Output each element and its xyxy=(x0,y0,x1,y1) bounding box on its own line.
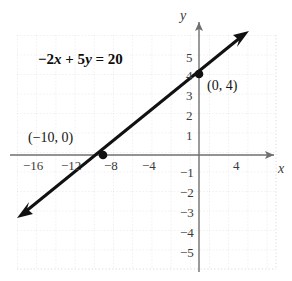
y-tick-1: 1 xyxy=(186,129,193,142)
equation-constant: = 20 xyxy=(92,51,123,67)
y-tick-3: 3 xyxy=(186,89,193,102)
y-tick-minus4: −4 xyxy=(180,226,194,239)
y-tick-5: 5 xyxy=(186,51,193,64)
x-tick-minus16: −16 xyxy=(23,159,43,172)
equation-variable-x: x xyxy=(54,51,62,67)
point-label-left: (−10, 0) xyxy=(28,131,73,145)
x-axis-label: x xyxy=(278,162,284,176)
y-tick-minus2: −2 xyxy=(180,186,194,199)
x-tick-minus12: −12 xyxy=(61,159,81,172)
x-tick-4: 4 xyxy=(233,159,240,172)
equation-label: −2x + 5y = 20 xyxy=(38,52,123,67)
x-tick-minus8: −8 xyxy=(104,159,118,172)
point-label-right: (0, 4) xyxy=(207,79,237,93)
point-marker-right xyxy=(195,70,204,79)
equation-variable-y: y xyxy=(85,51,92,67)
x-tick-minus4: −4 xyxy=(142,159,156,172)
y-tick-4: 4 xyxy=(186,69,193,82)
y-axis-label: y xyxy=(180,9,186,23)
y-tick-2: 2 xyxy=(186,109,193,122)
y-tick-minus1: −1 xyxy=(180,166,194,179)
y-tick-minus3: −3 xyxy=(180,206,194,219)
equation-coefficient-x: −2 xyxy=(38,51,54,67)
y-tick-minus5: −5 xyxy=(180,246,194,259)
graph-figure: −2x + 5y = 20 (−10, 0) (0, 4) x y −16 −1… xyxy=(0,0,292,281)
equation-operator: + 5 xyxy=(62,51,86,67)
grid xyxy=(17,35,276,269)
